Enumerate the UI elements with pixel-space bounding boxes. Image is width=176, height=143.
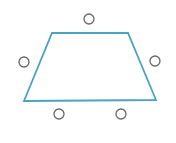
circle-marker-bottom-right xyxy=(116,109,126,119)
circle-marker-bottom-left xyxy=(54,109,64,119)
trapezoid-diagram xyxy=(0,0,176,143)
trapezoid-shape xyxy=(24,33,156,101)
circle-marker-right xyxy=(150,56,160,66)
circle-marker-left xyxy=(19,57,29,67)
circle-marker-top xyxy=(84,14,94,24)
marker-circles xyxy=(19,14,160,119)
